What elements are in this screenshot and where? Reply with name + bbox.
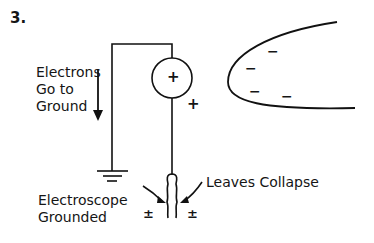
- left-curved-arrow-icon: [143, 186, 166, 203]
- ground-wire: [112, 44, 172, 175]
- ground-symbol-icon: [97, 171, 128, 181]
- wire-charge-plus: +: [187, 96, 200, 113]
- leaf-right-charge: ±: [187, 205, 198, 222]
- leaf-left-charge: ±: [143, 205, 154, 222]
- rod-charge-minus: −: [245, 60, 257, 77]
- knob-charge-plus: +: [167, 69, 180, 86]
- right-curved-arrow-icon: [180, 182, 202, 203]
- electroscope-leaves: [167, 174, 177, 218]
- rod-charge-minus: −: [249, 83, 261, 100]
- rod-charge-minus: −: [267, 43, 279, 60]
- down-arrow-icon: [93, 70, 103, 121]
- rod-charge-minus: −: [281, 88, 293, 105]
